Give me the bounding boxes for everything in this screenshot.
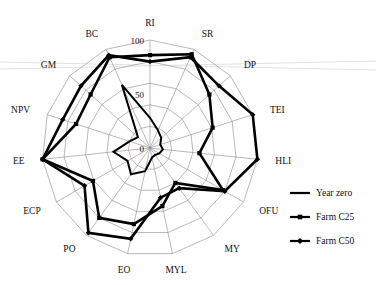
radial-tick-50: 50: [135, 90, 145, 100]
data-point-marker: [132, 222, 136, 226]
axis-label-hli: HLI: [275, 156, 291, 166]
axis-label-ofu: OFU: [259, 206, 278, 216]
data-point-marker: [207, 92, 211, 96]
data-point-marker: [74, 122, 78, 126]
axis-label-po: PO: [63, 244, 75, 254]
legend-square-marker-icon: [298, 215, 303, 220]
radar-chart-svg: RISRDPTEIHLIOFUMYMYLEOPOECPEENPVGMBC 050…: [0, 0, 376, 285]
data-point-marker: [91, 179, 95, 183]
axis-label-my: MY: [224, 244, 239, 254]
legend-label: Farm C50: [316, 236, 355, 246]
axis-label-ecp: ECP: [23, 206, 40, 216]
axis-label-gm: GM: [41, 60, 57, 70]
axis-label-eo: EO: [118, 265, 131, 275]
axis-label-ri: RI: [145, 18, 155, 28]
axis-label-dp: DP: [244, 60, 256, 70]
axis-label-ee: EE: [13, 156, 25, 166]
data-point-marker: [197, 151, 201, 155]
legend-label: Farm C25: [316, 212, 355, 222]
data-point-marker: [148, 53, 152, 57]
axis-label-sr: SR: [202, 29, 214, 39]
radial-tick-0: 0: [140, 144, 145, 154]
radar-chart-figure: RISRDPTEIHLIOFUMYMYLEOPOECPEENPVGMBC 050…: [0, 0, 376, 285]
legend-label: Year zero: [316, 188, 352, 198]
radial-tick-100: 100: [131, 36, 145, 46]
data-point-marker: [211, 126, 215, 130]
data-point-marker: [160, 204, 164, 208]
data-point-marker: [97, 216, 101, 220]
axis-label-npv: NPV: [11, 105, 30, 115]
axis-label-myl: MYL: [165, 265, 186, 275]
axis-label-tei: TEI: [270, 105, 285, 115]
data-point-marker: [173, 181, 177, 185]
axis-label-bc: BC: [85, 29, 98, 39]
data-point-marker: [89, 92, 93, 96]
